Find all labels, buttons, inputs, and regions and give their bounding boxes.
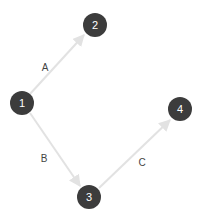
edge-a[interactable]: A (30, 35, 84, 94)
graph-canvas: A B C 1 2 3 4 (0, 0, 202, 216)
edge-label-a: A (42, 62, 49, 73)
node-3[interactable]: 3 (77, 185, 101, 209)
node-label-1: 1 (19, 97, 25, 109)
edge-label-b: B (41, 153, 48, 164)
node-label-2: 2 (92, 19, 98, 31)
edge-c[interactable]: C (99, 120, 170, 188)
edge-label-c: C (138, 157, 145, 168)
node-label-4: 4 (177, 103, 183, 115)
node-label-3: 3 (86, 191, 92, 203)
edge-b[interactable]: B (30, 113, 80, 186)
node-2[interactable]: 2 (83, 13, 107, 37)
node-1[interactable]: 1 (10, 91, 34, 115)
node-4[interactable]: 4 (168, 97, 192, 121)
